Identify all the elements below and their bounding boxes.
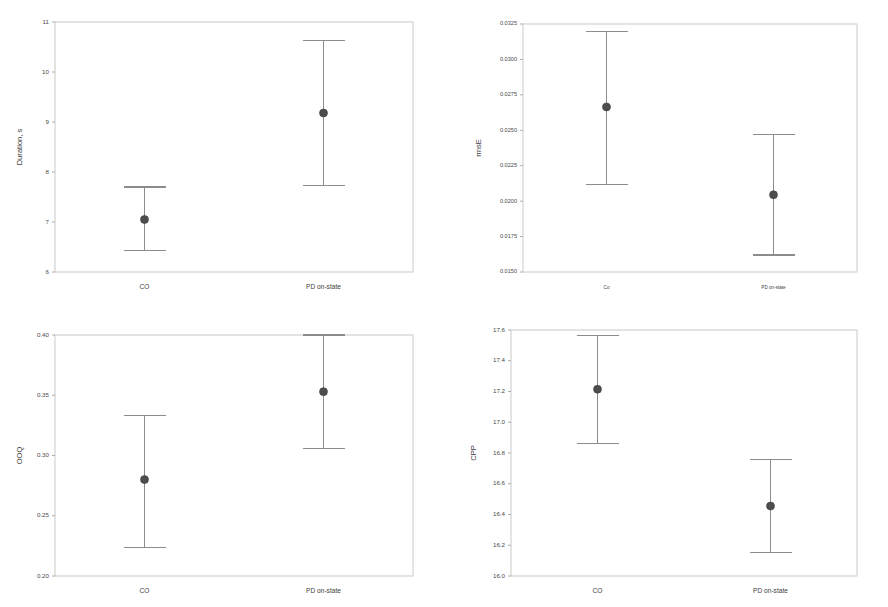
y-tick-label: 0.0200 <box>500 198 517 204</box>
data-point-marker <box>594 385 602 393</box>
x-category-label: PD on-state <box>306 587 341 594</box>
y-tick-label: 6 <box>46 268 50 275</box>
panel-cpp-svg: 16.016.216.416.616.817.017.217.417.6CPPC… <box>444 304 888 607</box>
data-point-marker <box>770 191 778 199</box>
y-tick-label: 0.30 <box>37 451 50 458</box>
y-tick-label: 16.8 <box>493 449 506 456</box>
y-tick-label: 16.6 <box>493 479 506 486</box>
error-bar-figure: 67891011Duration, sCOPD on-state 0.01500… <box>0 0 888 607</box>
y-tick-label: 7 <box>46 218 50 225</box>
y-tick-label: 0.0150 <box>500 268 517 274</box>
y-tick-label: 9 <box>46 118 50 125</box>
y-tick-label: 0.25 <box>37 511 50 518</box>
y-tick-label: 0.0325 <box>500 20 517 26</box>
x-category-label: PD on-state <box>761 285 786 290</box>
panel-duration-svg: 67891011Duration, sCOPD on-state <box>0 0 444 303</box>
y-tick-label: 17.0 <box>493 418 506 425</box>
data-point-marker <box>767 502 775 510</box>
data-point-marker <box>320 109 328 117</box>
y-tick-label: 0.0300 <box>500 56 517 62</box>
panel-ooq-svg: 0.200.250.300.350.40OOQCOPD on-state <box>0 304 444 607</box>
y-tick-label: 17.2 <box>493 387 506 394</box>
y-tick-label: 17.6 <box>493 326 506 333</box>
x-category-label: CO <box>593 587 603 594</box>
y-tick-label: 17.4 <box>493 356 506 363</box>
panel-rmse: 0.01500.01750.02000.02250.02500.02750.03… <box>444 0 888 303</box>
y-tick-label: 11 <box>43 18 50 25</box>
plot-frame <box>511 330 857 576</box>
y-tick-label: 16.0 <box>493 572 506 579</box>
y-tick-label: 0.40 <box>37 331 50 338</box>
data-point-marker <box>320 388 328 396</box>
plot-frame <box>523 24 857 272</box>
y-tick-label: 16.4 <box>493 510 506 517</box>
y-axis-title: CPP <box>469 445 478 461</box>
x-category-label: CO <box>140 587 150 594</box>
y-tick-label: 10 <box>42 68 49 75</box>
y-tick-label: 0.35 <box>37 391 50 398</box>
x-category-label: PD on-state <box>753 587 788 594</box>
data-point-marker <box>603 103 611 111</box>
y-tick-label: 0.0175 <box>500 233 517 239</box>
y-tick-label: 0.0250 <box>500 127 517 133</box>
panel-rmse-svg: 0.01500.01750.02000.02250.02500.02750.03… <box>444 0 888 303</box>
x-category-label: Co <box>604 285 610 290</box>
y-tick-label: 0.0275 <box>500 91 517 97</box>
y-axis-title: OOQ <box>15 447 24 465</box>
y-axis-title: Duration, s <box>15 128 24 165</box>
panel-duration: 67891011Duration, sCOPD on-state <box>0 0 444 303</box>
y-axis-title: rmsE <box>474 139 483 157</box>
panel-ooq: 0.200.250.300.350.40OOQCOPD on-state <box>0 304 444 607</box>
y-tick-label: 8 <box>46 168 50 175</box>
plot-frame <box>55 335 413 576</box>
data-point-marker <box>141 476 149 484</box>
plot-frame <box>55 22 413 272</box>
y-tick-label: 16.2 <box>493 541 506 548</box>
x-category-label: PD on-state <box>306 283 341 290</box>
panel-cpp: 16.016.216.416.616.817.017.217.417.6CPPC… <box>444 304 888 607</box>
y-tick-label: 0.20 <box>37 572 50 579</box>
data-point-marker <box>141 216 149 224</box>
y-tick-label: 0.0225 <box>500 162 517 168</box>
x-category-label: CO <box>140 283 150 290</box>
